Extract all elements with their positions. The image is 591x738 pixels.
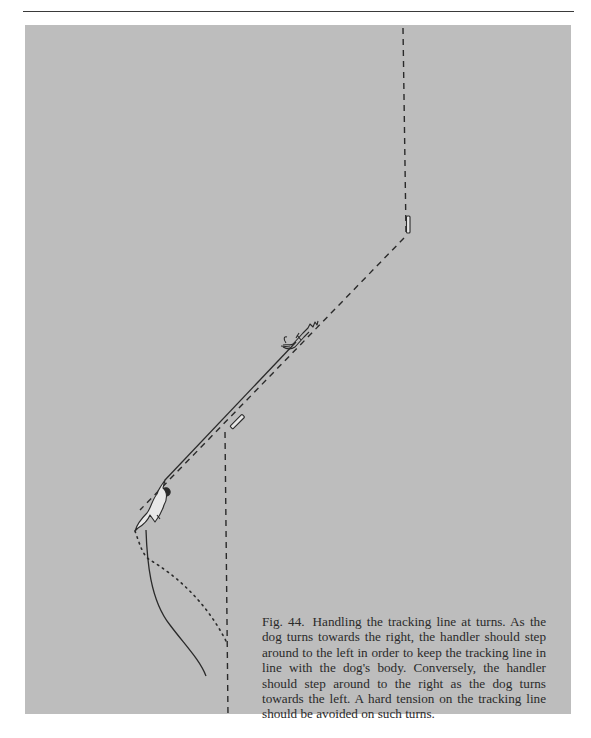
handler-path-dotted bbox=[135, 531, 226, 641]
turn-marker-lower-icon bbox=[230, 414, 245, 429]
track-upper-dashed bbox=[403, 28, 406, 232]
track-diagonal-dashed bbox=[140, 238, 404, 510]
handler-icon bbox=[135, 480, 170, 531]
track-lower-dashed bbox=[225, 432, 228, 716]
figure-caption: Fig. 44.Handling the tracking line at tu… bbox=[262, 614, 546, 722]
tracking-line bbox=[165, 342, 296, 480]
turn-marker-upper-icon bbox=[407, 216, 411, 233]
handler-path-solid bbox=[146, 530, 206, 676]
dog-icon bbox=[281, 321, 318, 349]
figure-caption-text: Handling the tracking line at turns. As … bbox=[262, 614, 546, 721]
figure-label: Fig. 44. bbox=[262, 614, 305, 629]
